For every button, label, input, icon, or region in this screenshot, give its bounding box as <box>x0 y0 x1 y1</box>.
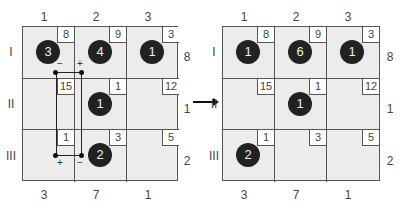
loop-node <box>53 70 58 75</box>
clue-box: 5 <box>162 130 179 146</box>
row-sum: 1 <box>177 102 197 116</box>
minus-sign: − <box>57 58 63 69</box>
cell: 5 <box>327 130 379 182</box>
plus-sign: + <box>77 58 83 69</box>
clue-box: 12 <box>162 79 179 95</box>
clue-box: 1 <box>257 130 274 146</box>
disc: 2 <box>88 143 112 167</box>
plus-sign: + <box>57 157 63 168</box>
disc: 1 <box>140 40 164 64</box>
col-label: 2 <box>286 10 306 24</box>
cell: 83 <box>23 27 75 79</box>
clue-box: 3 <box>362 27 379 43</box>
col-sum: 1 <box>138 188 158 202</box>
cell: 15 <box>223 79 275 131</box>
grid: 81 96 31 15 11 12 12 3 5 <box>222 26 380 181</box>
clue-box: 3 <box>309 130 326 146</box>
row-label: II <box>204 97 224 111</box>
row-sum: 8 <box>177 50 197 64</box>
clue-box: 8 <box>257 27 274 43</box>
clue-box: 15 <box>257 79 274 95</box>
col-sum: 7 <box>86 188 106 202</box>
cell: 12 <box>223 130 275 182</box>
cell: 96 <box>275 27 327 79</box>
cell: 12 <box>127 79 179 131</box>
row-label: III <box>204 149 224 163</box>
minus-sign: − <box>77 157 83 168</box>
col-label: 2 <box>86 10 106 24</box>
col-label: 3 <box>338 10 358 24</box>
disc: 4 <box>88 40 112 64</box>
row-label: I <box>1 45 21 59</box>
cell: 11 <box>75 79 127 131</box>
row-sum: 8 <box>380 50 400 64</box>
disc: 1 <box>236 40 260 64</box>
cell: 31 <box>127 27 179 79</box>
cell: 31 <box>327 27 379 79</box>
row-label: I <box>204 45 224 59</box>
row-label: III <box>1 149 21 163</box>
clue-box: 5 <box>362 130 379 146</box>
disc: 2 <box>236 143 260 167</box>
cell: 5 <box>127 130 179 182</box>
cell: 11 <box>275 79 327 131</box>
puzzle-before: 1 2 3 3 7 1 I II III 8 1 2 83 94 31 15 1… <box>0 0 190 217</box>
swap-loop <box>56 72 82 156</box>
col-label: 1 <box>234 10 254 24</box>
row-sum: 2 <box>177 154 197 168</box>
clue-box: 3 <box>162 27 179 43</box>
disc: 1 <box>88 92 112 116</box>
disc: 6 <box>288 40 312 64</box>
row-sum: 2 <box>380 154 400 168</box>
col-sum: 3 <box>234 188 254 202</box>
col-sum: 1 <box>338 188 358 202</box>
row-label: II <box>1 97 21 111</box>
cell: 12 <box>327 79 379 131</box>
disc: 1 <box>288 92 312 116</box>
cell: 81 <box>223 27 275 79</box>
loop-node <box>79 70 84 75</box>
clue-box: 9 <box>109 27 126 43</box>
row-sum: 1 <box>380 102 400 116</box>
clue-box: 8 <box>57 27 74 43</box>
col-sum: 3 <box>34 188 54 202</box>
col-label: 1 <box>34 10 54 24</box>
puzzle-after: 1 2 3 3 7 1 I II III 8 1 2 81 96 31 15 1… <box>200 0 390 217</box>
cell: 3 <box>275 130 327 182</box>
col-sum: 7 <box>286 188 306 202</box>
disc: 1 <box>340 40 364 64</box>
clue-box: 1 <box>309 79 326 95</box>
clue-box: 12 <box>362 79 379 95</box>
clue-box: 1 <box>109 79 126 95</box>
clue-box: 3 <box>109 130 126 146</box>
col-label: 3 <box>138 10 158 24</box>
grid: 83 94 31 15 11 12 1 32 5 <box>22 26 178 181</box>
clue-box: 9 <box>309 27 326 43</box>
